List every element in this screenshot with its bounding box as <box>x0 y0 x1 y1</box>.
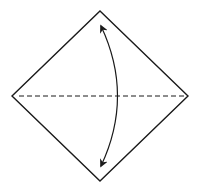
origami-diagram <box>0 0 199 186</box>
